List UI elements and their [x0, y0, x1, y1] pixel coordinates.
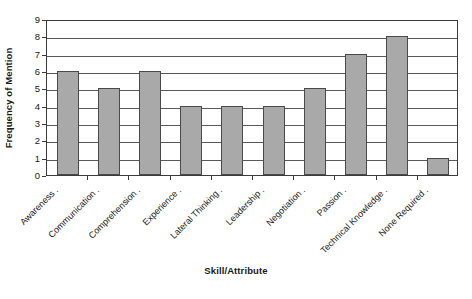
bar — [304, 88, 326, 175]
x-axis-tick-mark — [128, 176, 129, 180]
x-axis-tick-mark — [334, 176, 335, 180]
bar — [57, 71, 79, 175]
x-axis-category-label: Negotiation . — [264, 185, 307, 228]
y-axis-title: Frequency of Mention — [2, 20, 16, 176]
y-axis-tick-label: 4 — [26, 102, 40, 112]
bar — [345, 54, 367, 175]
x-axis-title: Skill/Attribute — [0, 265, 472, 276]
bar — [263, 106, 285, 175]
bar — [427, 158, 449, 175]
y-axis-tick-label: 6 — [26, 67, 40, 77]
x-axis-tick-mark — [417, 176, 418, 180]
x-axis-category-label: Passion . — [315, 185, 348, 218]
bars-layer — [47, 21, 457, 175]
y-axis-tick-label: 3 — [26, 119, 40, 129]
y-axis-tick-mark — [42, 176, 46, 177]
y-axis-tick-label: 9 — [26, 15, 40, 25]
x-axis-category-label: Leadership . — [224, 185, 266, 227]
bar — [180, 106, 202, 175]
x-axis-tick-mark — [293, 176, 294, 180]
x-axis-tick-mark — [87, 176, 88, 180]
x-axis-tick-mark — [376, 176, 377, 180]
plot-area — [46, 20, 458, 176]
y-axis-tick-label: 5 — [26, 84, 40, 94]
bar — [139, 71, 161, 175]
y-axis-tick-label: 2 — [26, 136, 40, 146]
y-axis-tick-label: 1 — [26, 154, 40, 164]
x-axis-tick-mark — [252, 176, 253, 180]
y-axis-tick-label: 0 — [26, 171, 40, 181]
x-axis-tick-mark — [170, 176, 171, 180]
y-axis-tick-label: 8 — [26, 32, 40, 42]
y-axis-tick-label: 7 — [26, 50, 40, 60]
bar-chart-figure: Frequency of Mention 0123456789 Awarenes… — [0, 0, 472, 299]
bar — [98, 88, 120, 175]
x-axis-category-label: Experience . — [141, 185, 183, 227]
bar — [221, 106, 243, 175]
bar — [386, 36, 408, 175]
x-axis-tick-mark — [211, 176, 212, 180]
x-axis-category-label: Awareness . — [18, 185, 60, 227]
